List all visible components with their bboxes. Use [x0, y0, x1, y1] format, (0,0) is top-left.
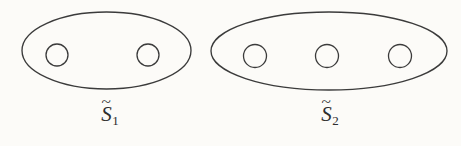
tilde-accent-icon: ~ — [322, 95, 331, 110]
surface-2-hole-3 — [389, 45, 412, 68]
surface-label-1-base: ~S — [101, 104, 112, 125]
surface-outline-2 — [211, 12, 447, 90]
surface-label-1-subscript: 1 — [112, 113, 119, 128]
surface-label-2-base: ~S — [321, 104, 332, 125]
tilde-accent-icon: ~ — [102, 95, 111, 110]
surface-2-hole-2 — [316, 45, 339, 68]
surface-diagram-figure: ~S1 ~S2 — [0, 0, 461, 146]
surface-label-1: ~S1 — [101, 104, 119, 127]
surface-label-2-subscript: 2 — [332, 113, 339, 128]
surface-group-1 — [22, 12, 191, 89]
surface-1-hole-2 — [137, 44, 159, 66]
surface-label-2: ~S2 — [321, 104, 339, 127]
diagram-canvas — [0, 0, 461, 146]
surface-group-2 — [211, 12, 447, 90]
surface-1-hole-1 — [46, 44, 68, 66]
surface-2-hole-1 — [244, 45, 267, 68]
